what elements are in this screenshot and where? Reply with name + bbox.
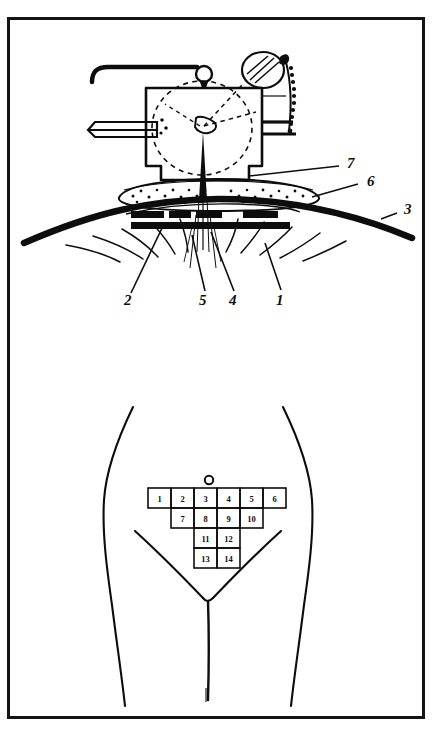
callout-label-4: 4 <box>228 292 237 308</box>
grid-cell-label: 12 <box>224 534 233 544</box>
grid-cell-label: 6 <box>272 494 276 504</box>
callout-label-6: 6 <box>367 173 375 189</box>
page-background <box>0 0 436 731</box>
callout-label-3: 3 <box>403 201 412 217</box>
grid-cell-label: 14 <box>224 554 233 564</box>
figure-canvas: 7 6 3 2 5 4 1 <box>0 0 436 731</box>
callout-label-2: 2 <box>123 292 132 308</box>
grid-cell-label: 8 <box>203 514 207 524</box>
grid-cell-label: 1 <box>157 494 161 504</box>
grid-cell-label: 9 <box>226 514 230 524</box>
grid-cell-label: 11 <box>201 534 209 544</box>
figure-page: 7 6 3 2 5 4 1 <box>0 0 436 731</box>
callout-label-5: 5 <box>199 292 207 308</box>
grid-cell-label: 5 <box>249 494 253 504</box>
callout-label-1: 1 <box>276 292 284 308</box>
callout-label-7: 7 <box>347 155 355 171</box>
midline-cleft <box>208 601 209 700</box>
grid-cell-label: 3 <box>203 494 207 504</box>
grid-cell-label: 13 <box>201 554 210 564</box>
grid-cell-label: 2 <box>180 494 184 504</box>
grid-cell-label: 10 <box>247 514 256 524</box>
